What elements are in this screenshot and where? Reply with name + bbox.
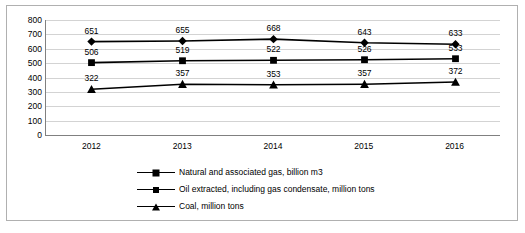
chart-frame: 800 700 600 500 400 300 bbox=[6, 5, 518, 221]
data-label: 633 bbox=[448, 28, 462, 38]
data-point-marker bbox=[179, 57, 186, 64]
legend-item-oil: Oil extracted, including gas condensate,… bbox=[137, 181, 375, 198]
y-axis-tick: 700 bbox=[28, 29, 42, 39]
data-label: 533 bbox=[448, 43, 462, 53]
plot-area: 800 700 600 500 400 300 bbox=[45, 20, 500, 136]
legend-item-gas: Natural and associated gas, billion m3 bbox=[137, 164, 375, 181]
data-label: 357 bbox=[175, 68, 189, 78]
legend-item-coal: Coal, million tons bbox=[137, 198, 375, 215]
data-label: 322 bbox=[84, 73, 98, 83]
data-label: 522 bbox=[266, 44, 280, 54]
legend-marker-square-icon bbox=[137, 184, 175, 196]
legend: Natural and associated gas, billion m3 O… bbox=[137, 164, 375, 215]
x-axis-tick: 2013 bbox=[173, 141, 192, 151]
data-point-marker bbox=[361, 56, 368, 63]
y-axis-tick: 100 bbox=[28, 116, 42, 126]
data-label: 357 bbox=[357, 68, 371, 78]
y-axis-tick: 400 bbox=[28, 73, 42, 83]
data-point-marker bbox=[452, 55, 459, 62]
data-point-marker bbox=[88, 59, 95, 66]
data-label: 651 bbox=[84, 26, 98, 36]
data-label: 643 bbox=[357, 27, 371, 37]
data-label: 668 bbox=[266, 23, 280, 33]
data-label: 353 bbox=[266, 69, 280, 79]
x-axis-tick: 2016 bbox=[445, 141, 464, 151]
y-axis-tick: 0 bbox=[37, 130, 42, 140]
y-axis-tick: 600 bbox=[28, 44, 42, 54]
data-label: 519 bbox=[175, 45, 189, 55]
chart-container: 800 700 600 500 400 300 bbox=[0, 0, 525, 233]
legend-label: Coal, million tons bbox=[179, 202, 244, 211]
x-axis-tick: 2014 bbox=[264, 141, 283, 151]
legend-label: Natural and associated gas, billion m3 bbox=[179, 168, 323, 177]
data-label: 506 bbox=[84, 47, 98, 57]
y-axis-tick: 200 bbox=[28, 101, 42, 111]
y-axis-tick: 300 bbox=[28, 87, 42, 97]
legend-marker-triangle-icon bbox=[137, 201, 175, 213]
data-point-marker bbox=[269, 35, 277, 43]
legend-marker-diamond-icon bbox=[137, 167, 175, 179]
data-point-marker bbox=[87, 37, 95, 45]
data-label: 526 bbox=[357, 44, 371, 54]
data-label: 372 bbox=[448, 66, 462, 76]
x-axis-tick: 2012 bbox=[82, 141, 101, 151]
y-axis-tick: 800 bbox=[28, 15, 42, 25]
legend-label: Oil extracted, including gas condensate,… bbox=[179, 185, 375, 194]
x-axis-tick: 2015 bbox=[354, 141, 373, 151]
data-point-marker bbox=[270, 57, 277, 64]
data-label: 655 bbox=[175, 25, 189, 35]
y-axis-tick: 500 bbox=[28, 58, 42, 68]
